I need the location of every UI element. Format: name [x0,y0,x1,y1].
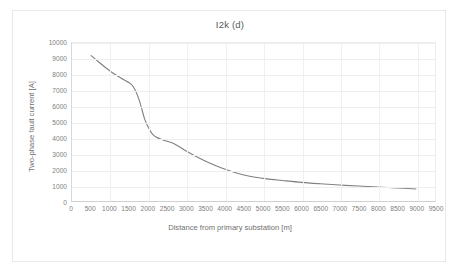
x-axis-tick-label: 6500 [313,205,328,212]
gridline-vertical [418,43,419,201]
chart-container: I2k (d) 01000200030004000500060007000800… [12,10,446,262]
x-axis-tick-labels: 0500100015002000250030003500400045005000… [71,205,437,217]
x-axis-tick-label: 6000 [294,205,309,212]
series-line-i2k [72,43,435,201]
x-axis-tick-label: 500 [85,205,96,212]
x-axis-tick-label: 7000 [333,205,348,212]
gridline-horizontal [72,59,435,60]
x-axis-tick-label: 9500 [429,205,444,212]
gridline-vertical [264,43,265,201]
gridline-horizontal [72,123,435,124]
x-axis-tick-label: 1000 [102,205,117,212]
gridline-horizontal [72,139,435,140]
x-axis-tick-label: 5500 [275,205,290,212]
x-axis-tick-label: 2500 [160,205,175,212]
y-axis-tick-label: 10000 [23,39,67,46]
x-axis-title: Distance from primary substation [m] [13,223,447,232]
x-axis-tick-label: 3500 [198,205,213,212]
x-axis-tick-label: 7500 [352,205,367,212]
x-axis-tick-label: 4500 [237,205,252,212]
gridline-vertical [379,43,380,201]
x-axis-tick-label: 9000 [409,205,424,212]
x-axis-tick-label: 4000 [217,205,232,212]
chart-title: I2k (d) [13,19,447,30]
gridline-vertical [303,43,304,201]
x-axis-tick-label: 2000 [140,205,155,212]
gridline-vertical [226,43,227,201]
gridline-horizontal [72,91,435,92]
gridline-vertical [149,43,150,201]
x-axis-tick-label: 5000 [256,205,271,212]
x-axis-tick-label: 8500 [390,205,405,212]
x-axis-tick-label: 3000 [179,205,194,212]
gridline-vertical [187,43,188,201]
plot-area [71,42,436,202]
x-axis-tick-label: 1500 [121,205,136,212]
gridline-horizontal [72,43,435,44]
x-axis-tick-label: 0 [69,205,73,212]
gridline-horizontal [72,187,435,188]
gridline-horizontal [72,155,435,156]
y-axis-title: Two-phase fault current [A] [27,47,36,207]
gridline-vertical [110,43,111,201]
gridline-horizontal [72,171,435,172]
gridline-horizontal [72,107,435,108]
x-axis-tick-label: 8000 [371,205,386,212]
gridline-horizontal [72,75,435,76]
gridline-vertical [341,43,342,201]
